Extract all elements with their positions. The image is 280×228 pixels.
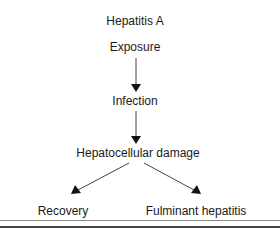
- arrow-exposure-infection: [131, 58, 141, 92]
- diagram-arrows: [0, 0, 280, 228]
- arrow-infection-damage: [131, 111, 141, 144]
- arrow-damage-recovery: [71, 163, 129, 194]
- divider-bottom: [0, 226, 280, 228]
- arrow-damage-fulminant: [144, 163, 201, 194]
- divider-top: [0, 220, 280, 221]
